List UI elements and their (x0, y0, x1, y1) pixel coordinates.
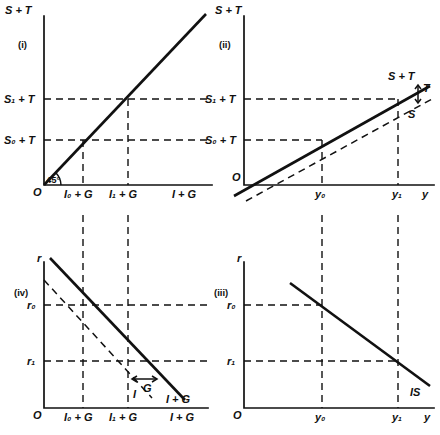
figure-canvas: S + T (i) S₁ + T S₀ + T O 45° I₀ + G I₁ … (0, 0, 440, 435)
quadrant-i: S + T (i) S₁ + T S₀ + T O 45° I₀ + G I₁ … (4, 4, 212, 200)
quadrant-ii-xtick-y0: y₀ (314, 188, 325, 200)
quadrant-iii-origin-label: O (233, 409, 242, 421)
gov-gap-label: G (143, 382, 152, 394)
quadrant-ii-tag: (ii) (219, 39, 231, 50)
quadrant-iii-xtick-y0: y₀ (314, 411, 325, 423)
is-curve (290, 283, 430, 386)
quadrant-iv-ytick-r1: r₁ (27, 355, 35, 367)
quadrant-iv-origin-label: O (33, 409, 42, 421)
quadrant-iv-axes (44, 262, 208, 408)
quadrant-iii-ytick-r0: r₀ (227, 299, 236, 311)
quadrant-iv-xtick-i1g: I₁ + G (109, 411, 137, 423)
tax-gap-label: T (423, 82, 431, 94)
quadrant-iii-xtick-y1: y₁ (391, 411, 402, 423)
quadrant-iv: r (iv) r₀ r₁ O I₀ + G I₁ + G I + G I + G… (14, 215, 212, 423)
quadrant-iii-y-axis-label: r (237, 252, 242, 264)
quadrant-iv-tag: (iv) (14, 287, 28, 298)
quadrant-iii: r (iii) r₀ r₁ O y₀ y₁ y IS (214, 215, 434, 423)
is-curve-label: IS (410, 386, 421, 398)
quadrant-iv-x-axis-label: I + G (170, 411, 195, 423)
quadrant-ii-x-axis-label: y (421, 188, 429, 200)
quadrant-iii-tag: (iii) (214, 287, 228, 298)
quadrant-i-xtick-i1g: I₁ + G (109, 188, 137, 200)
quadrant-i-y-axis-label: S + T (5, 4, 33, 16)
quadrant-i-origin-label: O (33, 186, 42, 198)
quadrant-ii-origin-label: O (232, 171, 241, 183)
quadrant-i-xtick-i0g: I₀ + G (64, 188, 93, 200)
quadrant-i-angle-label: 45° (46, 174, 61, 185)
saving-plus-tax-line-label: S + T (388, 70, 416, 82)
saving-plus-tax-line (234, 86, 430, 196)
quadrant-iv-y-axis-label: r (37, 252, 42, 264)
investment-line (44, 280, 152, 398)
quadrant-i-x-axis-label: I + G (172, 188, 197, 200)
quadrant-ii: S + T (ii) S₁ + T S₀ + T O y₀ y₁ y S + T… (205, 4, 434, 201)
saving-line-label: S (408, 108, 416, 120)
quadrant-iii-x-axis-label: y (423, 411, 431, 423)
quadrant-iii-ytick-r1: r₁ (227, 355, 235, 367)
quadrant-iii-axes (244, 262, 434, 408)
quadrant-iv-xtick-i0g: I₀ + G (64, 411, 93, 423)
quadrant-ii-ytick-s0t: S₀ + T (205, 134, 237, 146)
quadrant-i-ytick-s1t: S₁ + T (4, 93, 36, 105)
quadrant-i-tag: (i) (18, 39, 27, 50)
investment-plus-government-line (50, 258, 185, 400)
quadrant-ii-xtick-y1: y₁ (391, 188, 402, 200)
quadrant-ii-ytick-s1t: S₁ + T (205, 93, 237, 105)
quadrant-ii-y-axis-label: S + T (215, 4, 243, 16)
investment-plus-government-line-label: I + G (166, 393, 191, 405)
is-curve-four-quadrant-figure: S + T (i) S₁ + T S₀ + T O 45° I₀ + G I₁ … (0, 0, 440, 435)
investment-line-label: I (133, 388, 137, 400)
quadrant-iv-ytick-r0: r₀ (27, 299, 36, 311)
quadrant-i-ytick-s0t: S₀ + T (4, 134, 36, 146)
